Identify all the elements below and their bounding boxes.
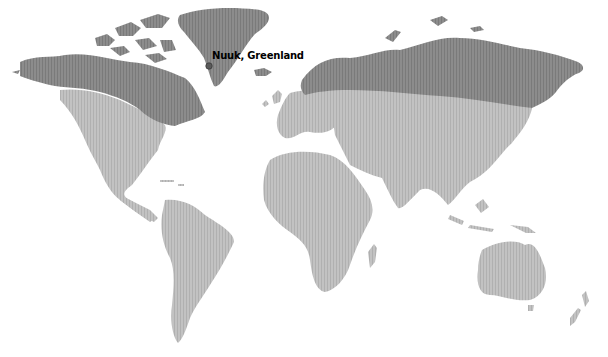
australia xyxy=(478,241,547,300)
greenland xyxy=(178,8,269,86)
world-map xyxy=(0,0,608,357)
southeast-asia-islands xyxy=(448,199,536,233)
arctic-archipelago xyxy=(95,14,176,63)
marker-label-nuuk: Nuuk, Greenland xyxy=(212,50,304,61)
tasmania xyxy=(528,305,534,311)
arctic-islands-russia xyxy=(385,16,484,42)
iceland xyxy=(254,68,272,76)
land-rest-of-world xyxy=(60,89,589,343)
africa xyxy=(263,152,372,292)
madagascar xyxy=(368,244,377,268)
central-america xyxy=(120,195,158,222)
new-zealand xyxy=(570,291,589,326)
nuuk-marker-icon[interactable] xyxy=(206,63,212,69)
aleutians xyxy=(12,70,20,74)
british-isles xyxy=(262,90,282,107)
caribbean xyxy=(160,180,184,186)
south-america xyxy=(161,200,234,343)
